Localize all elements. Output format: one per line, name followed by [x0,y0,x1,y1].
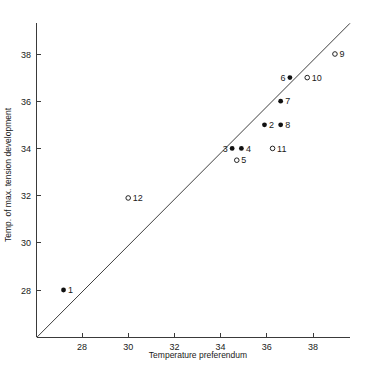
data-point-6 [288,75,293,80]
data-point-3 [230,146,235,151]
data-point-1 [61,288,66,293]
identity-line [37,23,350,337]
y-tick-label-34: 34 [21,144,31,154]
data-point-label-9: 9 [339,49,344,59]
data-point-label-4: 4 [246,144,251,154]
x-tick-label-38: 38 [308,342,318,352]
data-point-label-11: 11 [277,144,286,154]
scatter-plot-figure: 283032343638 283032343638 12346785910111… [0,0,368,376]
x-axis-title: Temperature preferendum [149,350,247,360]
data-point-label-10: 10 [312,73,322,83]
data-point-label-7: 7 [285,96,290,106]
data-points-group: 123467859101112 [61,49,344,295]
identity-line-group [37,23,350,337]
data-point-9 [333,52,338,57]
x-tick-label-36: 36 [262,342,272,352]
y-axis-title: Temp. of max. tension development [3,107,13,242]
y-axis-ticks: 283032343638 [21,50,41,296]
data-point-5 [234,158,239,163]
data-point-label-6: 6 [280,73,285,83]
data-point-10 [305,75,310,80]
data-point-11 [270,146,275,151]
data-point-label-3: 3 [223,144,228,154]
data-point-label-5: 5 [241,155,246,165]
data-point-12 [126,196,131,201]
data-point-label-12: 12 [133,193,143,203]
y-tick-label-32: 32 [21,191,31,201]
x-tick-label-28: 28 [77,342,87,352]
y-tick-label-38: 38 [21,50,31,60]
data-point-2 [262,122,267,127]
y-tick-label-30: 30 [21,238,31,248]
y-tick-label-28: 28 [21,286,31,296]
data-point-label-8: 8 [285,120,290,130]
data-point-8 [278,122,283,127]
data-point-4 [239,146,244,151]
data-point-label-1: 1 [68,285,73,295]
data-point-label-2: 2 [269,120,274,130]
plot-canvas: 283032343638 283032343638 12346785910111… [0,0,368,376]
y-tick-label-36: 36 [21,97,31,107]
x-tick-label-30: 30 [123,342,133,352]
data-point-7 [278,99,283,104]
